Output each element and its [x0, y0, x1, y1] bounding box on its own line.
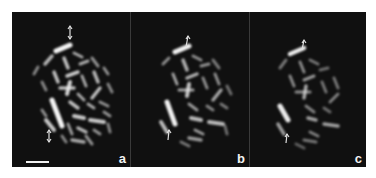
- panel-label-a: a: [119, 152, 126, 165]
- arrow-icon: [167, 130, 171, 140]
- micrograph-figure: a: [12, 12, 366, 167]
- arrow-icon: [285, 134, 289, 143]
- panel-label-c: c: [355, 152, 362, 165]
- chromosome-spread-a: [12, 12, 130, 167]
- arrow-icon: [68, 26, 72, 39]
- chromosome-spread-c: [250, 12, 366, 167]
- panel-c: c: [250, 12, 366, 167]
- arrow-icon: [47, 130, 51, 142]
- panel-a: a: [12, 12, 130, 167]
- scale-bar: [26, 161, 49, 163]
- panel-label-b: b: [237, 152, 245, 165]
- chromosome-spread-b: [131, 12, 249, 167]
- panel-b: b: [131, 12, 249, 167]
